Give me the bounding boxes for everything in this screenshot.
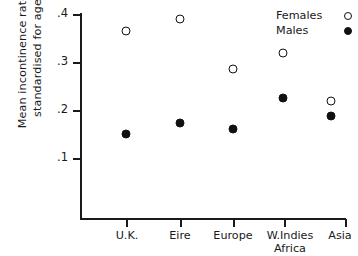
y-axis-tick-label-0: .4 (57, 5, 73, 21)
x-axis-label-west-indies-africa: W.Indies Africa (267, 229, 314, 255)
data-point-females-west-indies-africa (279, 49, 288, 58)
chart-legend: Females Males (276, 8, 356, 38)
x-axis-label-asia-text: Asia (328, 229, 351, 242)
data-point-males-uk (122, 130, 131, 139)
x-axis-line (80, 218, 346, 220)
x-axis-label-eire-text: Eire (169, 229, 190, 242)
x-axis-tick-3 (284, 219, 286, 227)
legend-label-females: Females (276, 8, 322, 23)
y-axis-line (80, 13, 82, 219)
x-axis-label-europe: Europe (213, 229, 252, 242)
y-axis-tick-label-1: .3 (57, 53, 73, 69)
x-axis-tick-4 (345, 219, 347, 227)
x-axis-label-eire: Eire (169, 229, 190, 242)
x-axis-tick-0 (126, 219, 128, 227)
filled-circle-icon (344, 27, 352, 35)
x-axis-tick-2 (233, 219, 235, 227)
legend-item-males: Males (276, 23, 356, 38)
x-axis-label-africa-text: Africa (267, 242, 314, 255)
data-point-males-europe (229, 125, 238, 134)
x-axis-label-europe-text: Europe (213, 229, 252, 242)
data-point-males-asia (327, 112, 336, 121)
x-axis-label-west-indies-text: W.Indies (267, 229, 314, 242)
data-point-females-eire (176, 15, 185, 24)
y-axis-tick-3: .1 (73, 158, 81, 160)
legend-label-males: Males (276, 23, 308, 38)
y-axis-tick-label-2: .2 (57, 101, 73, 117)
y-axis-tick-2: .2 (73, 110, 81, 112)
legend-item-females: Females (276, 8, 356, 23)
y-axis-title: Mean incontinence rates standardised for… (10, 0, 50, 148)
x-axis-label-uk-text: U.K. (116, 229, 139, 242)
data-point-females-europe (229, 65, 238, 74)
incontinence-rates-scatter-chart: Mean incontinence rates standardised for… (0, 0, 358, 256)
x-axis-tick-1 (180, 219, 182, 227)
y-axis-tick-0: .4 (73, 14, 81, 16)
data-point-males-eire (176, 119, 185, 128)
data-point-males-west-indies-africa (279, 94, 288, 103)
open-circle-icon (344, 12, 352, 20)
data-point-females-asia (327, 97, 336, 106)
x-axis-label-uk: U.K. (116, 229, 139, 242)
x-axis-label-asia: Asia (328, 229, 351, 242)
y-axis-tick-1: .3 (73, 62, 81, 64)
y-axis-tick-label-3: .1 (57, 149, 73, 165)
y-axis-title-line-2: standardised for age (30, 0, 45, 117)
y-axis-title-line-1: Mean incontinence rates (15, 0, 30, 128)
data-point-females-uk (122, 27, 131, 36)
